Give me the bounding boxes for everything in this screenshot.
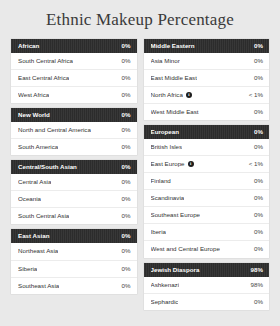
- region-row[interactable]: Finland0%: [144, 172, 270, 189]
- region-label: Asia Minor: [151, 57, 180, 65]
- region-row[interactable]: North Africai< 1%: [144, 86, 270, 103]
- region-label-wrap: Siberia: [18, 265, 37, 273]
- region-value: 0%: [250, 194, 263, 202]
- ethnicity-group: New World0%North and Central America0%So…: [11, 108, 137, 155]
- region-row[interactable]: Ashkenazi98%: [144, 277, 270, 293]
- region-row[interactable]: East Europei< 1%: [144, 155, 270, 172]
- region-value: 0%: [118, 212, 131, 220]
- region-value: 0%: [118, 91, 131, 99]
- region-row[interactable]: South Central Africa0%: [11, 53, 137, 69]
- ethnicity-group: African0%South Central Africa0%East Cent…: [11, 39, 137, 103]
- group-header-label: New World: [18, 111, 54, 119]
- region-value: 0%: [250, 108, 263, 116]
- region-value: < 1%: [245, 160, 263, 168]
- group-header-value: 0%: [122, 42, 131, 50]
- region-label: Ashkenazi: [151, 281, 180, 289]
- group-header[interactable]: African0%: [11, 39, 137, 53]
- region-row[interactable]: South Central Asia0%: [11, 207, 137, 224]
- region-label-wrap: South Central Africa: [18, 57, 73, 65]
- group-header-value: 0%: [254, 42, 263, 50]
- left-column: African0%South Central Africa0%East Cent…: [11, 39, 137, 299]
- region-row[interactable]: North and Central America0%: [11, 122, 137, 138]
- info-icon[interactable]: i: [186, 92, 192, 98]
- region-label: West Africa: [18, 91, 49, 99]
- region-row[interactable]: Southeast Asia0%: [11, 277, 137, 294]
- region-label-wrap: Northeast Asia: [18, 247, 58, 255]
- group-header[interactable]: European0%: [144, 125, 270, 139]
- region-row[interactable]: Southeast Europe0%: [144, 206, 270, 223]
- region-value: 0%: [250, 143, 263, 151]
- region-label-wrap: Central Asia: [18, 178, 51, 186]
- group-header-label: European: [151, 128, 184, 136]
- group-header-value: 0%: [122, 111, 131, 119]
- ethnicity-columns: African0%South Central Africa0%East Cent…: [0, 39, 280, 315]
- region-label: South Central Africa: [18, 57, 73, 65]
- ethnicity-group: Middle Eastern0%Asia Minor0%East Middle …: [144, 39, 270, 120]
- region-row[interactable]: West Africa0%: [11, 86, 137, 103]
- ethnicity-group: European0%British Isles0%East Europei< 1…: [144, 125, 270, 258]
- region-label-wrap: West and Central Europe: [151, 245, 220, 253]
- region-label-wrap: East Europei: [151, 160, 194, 168]
- region-row[interactable]: West Middle East0%: [144, 103, 270, 120]
- region-row[interactable]: Iberia0%: [144, 223, 270, 240]
- region-row[interactable]: Asia Minor0%: [144, 53, 270, 69]
- ethnicity-group: Jewish Diaspora98%Ashkenazi98%Sephardic0…: [144, 263, 270, 310]
- region-row[interactable]: East Middle East0%: [144, 69, 270, 86]
- right-column: Middle Eastern0%Asia Minor0%East Middle …: [144, 39, 270, 315]
- region-label-wrap: South America: [18, 143, 58, 151]
- region-row[interactable]: Siberia0%: [11, 260, 137, 277]
- group-header[interactable]: East Asian0%: [11, 229, 137, 243]
- region-label: Southeast Europe: [151, 211, 201, 219]
- region-value: 0%: [118, 126, 131, 134]
- region-row[interactable]: South America0%: [11, 138, 137, 155]
- ethnicity-group: East Asian0%Northeast Asia0%Siberia0%Sou…: [11, 229, 137, 293]
- region-value: 0%: [250, 177, 263, 185]
- region-row[interactable]: Sephardic0%: [144, 293, 270, 310]
- page-title: Ethnic Makeup Percentage: [0, 0, 280, 39]
- group-header-label: Central/South Asian: [18, 163, 81, 171]
- region-row[interactable]: Central Asia0%: [11, 174, 137, 190]
- region-label-wrap: South Central Asia: [18, 212, 69, 220]
- region-value: 0%: [250, 57, 263, 65]
- region-label-wrap: Asia Minor: [151, 57, 180, 65]
- info-icon[interactable]: i: [188, 161, 194, 167]
- group-header[interactable]: Central/South Asian0%: [11, 160, 137, 174]
- region-label-wrap: East Middle East: [151, 74, 197, 82]
- region-label: Siberia: [18, 265, 37, 273]
- group-header-label: Jewish Diaspora: [151, 266, 204, 274]
- region-value: 0%: [118, 282, 131, 290]
- region-label: Central Asia: [18, 178, 51, 186]
- region-value: < 1%: [245, 91, 263, 99]
- region-label: South America: [18, 143, 58, 151]
- group-header[interactable]: Middle Eastern0%: [144, 39, 270, 53]
- region-label: Iberia: [151, 228, 166, 236]
- group-header[interactable]: Jewish Diaspora98%: [144, 263, 270, 277]
- region-label: South Central Asia: [18, 212, 69, 220]
- region-row[interactable]: East Central Africa0%: [11, 69, 137, 86]
- region-row[interactable]: Northeast Asia0%: [11, 243, 137, 259]
- region-row[interactable]: West and Central Europe0%: [144, 240, 270, 257]
- region-label: Southeast Asia: [18, 282, 59, 290]
- region-label-wrap: North Africai: [151, 91, 192, 99]
- ethnicity-group: Central/South Asian0%Central Asia0%Ocean…: [11, 160, 137, 224]
- region-label: Sephardic: [151, 298, 179, 306]
- group-header[interactable]: New World0%: [11, 108, 137, 122]
- region-value: 0%: [250, 74, 263, 82]
- region-value: 0%: [118, 247, 131, 255]
- region-label-wrap: East Central Africa: [18, 74, 69, 82]
- region-label-wrap: Southeast Europe: [151, 211, 201, 219]
- region-label-wrap: Scandinavia: [151, 194, 185, 202]
- region-row[interactable]: Oceania0%: [11, 190, 137, 207]
- region-label: Scandinavia: [151, 194, 185, 202]
- region-label: Northeast Asia: [18, 247, 58, 255]
- region-value: 0%: [118, 57, 131, 65]
- region-label: East Europe: [151, 160, 185, 168]
- region-label-wrap: North and Central America: [18, 126, 91, 134]
- region-label: Finland: [151, 177, 171, 185]
- group-header-value: 0%: [254, 128, 263, 136]
- region-value: 0%: [118, 195, 131, 203]
- region-row[interactable]: British Isles0%: [144, 139, 270, 155]
- region-row[interactable]: Scandinavia0%: [144, 189, 270, 206]
- region-value: 98%: [247, 281, 263, 289]
- region-value: 0%: [118, 74, 131, 82]
